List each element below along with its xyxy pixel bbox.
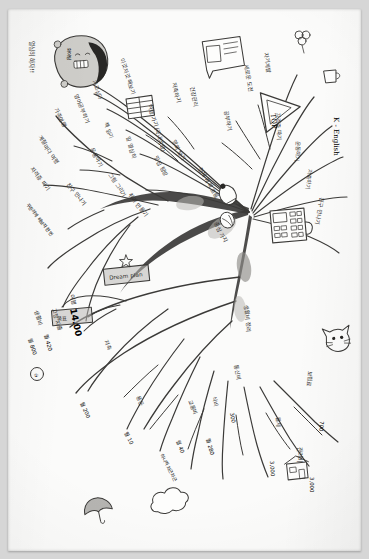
house-icon bbox=[284, 455, 310, 480]
note-icon bbox=[202, 36, 245, 78]
label-right-2: 운동하기 bbox=[293, 141, 302, 162]
label-u1: 이것저것 해보기 bbox=[118, 57, 137, 95]
amount-l7: 300 bbox=[229, 412, 237, 424]
branch-l5 bbox=[222, 381, 228, 479]
flower-icon bbox=[295, 31, 310, 53]
branch-l14 bbox=[294, 407, 322, 435]
label-u7: 책 읽기 bbox=[102, 121, 115, 140]
amount-l3: 월 200 bbox=[79, 401, 93, 420]
label-l7: 통신비 bbox=[232, 364, 243, 380]
label-u19: 새로운 도전 bbox=[242, 64, 255, 92]
amount-l2: 월 800 bbox=[27, 337, 39, 356]
label-l6: 식비 bbox=[210, 395, 221, 407]
drawing-canvas: Dream plan 목표 bbox=[8, 9, 361, 551]
calculator-icon bbox=[270, 207, 313, 242]
branch-l8 bbox=[274, 381, 338, 442]
label-u12: 건강관리 bbox=[188, 86, 200, 108]
label-u16: 맛집 탐방 bbox=[152, 154, 170, 177]
label-l10: 관리비 bbox=[296, 447, 304, 462]
amount-l1: 월 420 bbox=[43, 333, 55, 352]
label-u11: 저축하기 bbox=[170, 82, 183, 104]
label-u9: 운동하기 bbox=[88, 146, 105, 168]
paper-sheet: Dream plan 목표 bbox=[8, 9, 361, 551]
circle-marker: ① bbox=[31, 368, 44, 381]
cloud-shape bbox=[148, 485, 190, 515]
photo-scene: Dream plan 목표 bbox=[0, 0, 369, 559]
headline-note: 여행 bbox=[68, 294, 78, 306]
branch-l9 bbox=[124, 365, 158, 397]
label-group-lower: 14.00 여행 고정 지출 월 420 생활비 월 800 저축 월 200 … bbox=[27, 294, 325, 493]
label-l2: 생활비 bbox=[32, 309, 44, 326]
hood-tie-right bbox=[61, 80, 68, 87]
star-shape bbox=[120, 255, 133, 267]
note-bottom: 하나씩 차근차근 bbox=[158, 453, 179, 483]
cup-handle bbox=[336, 73, 340, 79]
cup-body bbox=[324, 70, 337, 83]
label-l9: 월세 bbox=[274, 417, 283, 428]
cat-head bbox=[322, 325, 352, 353]
label-u3: 영어공부하기 bbox=[72, 93, 91, 124]
branch-u16 bbox=[168, 117, 194, 149]
umbrella-handle bbox=[99, 511, 105, 524]
label-right-3: 저축하기 bbox=[304, 169, 314, 190]
label-u6: 자격증 따기 bbox=[28, 165, 51, 192]
cloud-icon bbox=[148, 485, 190, 515]
branch-u14 bbox=[68, 210, 104, 229]
label-u5: 계절마다 여행 bbox=[36, 134, 60, 166]
circle-marker-label: ① bbox=[34, 373, 38, 378]
trunk-shade-3 bbox=[235, 251, 253, 283]
mind-map-artwork: Dream plan 목표 bbox=[8, 9, 361, 551]
umbrella-canopy bbox=[82, 495, 112, 515]
amount-l5: 월 40 bbox=[175, 439, 187, 455]
branch-u25 bbox=[222, 143, 252, 169]
label-l5: 교통비 bbox=[186, 399, 199, 416]
amount-l10: 3,000 bbox=[309, 477, 315, 493]
amount-l6: 월 280 bbox=[205, 437, 217, 456]
star-icon bbox=[120, 255, 133, 267]
note-left-mid: 꾸준하게 해보자 한번 bbox=[24, 202, 54, 237]
amount-l8: 700 bbox=[318, 421, 325, 432]
amount-l9: 3,000 bbox=[269, 461, 276, 477]
k-english-label: K - English bbox=[332, 117, 340, 156]
cat-face-icon bbox=[322, 325, 352, 353]
cup-icon bbox=[324, 70, 340, 83]
label-u15: 친구 만나기 bbox=[64, 181, 88, 207]
lower-branch-group bbox=[62, 215, 338, 479]
label-u20: 자기계발 bbox=[262, 52, 273, 73]
branch-u24 bbox=[236, 121, 260, 159]
branch-u17 bbox=[251, 75, 297, 209]
umbrella-icon bbox=[82, 495, 115, 527]
note-body bbox=[202, 36, 245, 78]
sweep-line-1 bbox=[70, 277, 240, 327]
branch-l6 bbox=[244, 387, 268, 477]
character-caption: 열심히 하자!! bbox=[28, 41, 36, 73]
label-l3: 저축 bbox=[102, 339, 113, 352]
label-l8: 보험료 bbox=[306, 371, 313, 387]
label-u18: 공부하기 bbox=[222, 110, 233, 131]
label-u10: 여행 가기 (국내여행) bbox=[146, 103, 167, 152]
label-u4: 가족여행 bbox=[52, 106, 68, 128]
hoodie-character-doodle: 화이팅 bbox=[53, 34, 109, 89]
amount-l4: 월 10 bbox=[123, 430, 136, 446]
flower-stem bbox=[302, 45, 304, 53]
branch-u20 bbox=[254, 157, 343, 215]
branch-u9 bbox=[48, 209, 150, 268]
label-u8: 일 열심히 bbox=[124, 135, 138, 159]
sweep-line-3 bbox=[144, 321, 232, 429]
hood-tie-left bbox=[54, 41, 61, 48]
